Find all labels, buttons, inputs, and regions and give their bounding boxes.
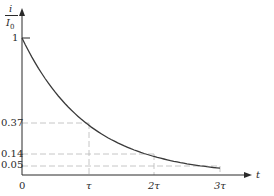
y-label-numerator: i [9,4,12,14]
y-tick-label-0.05: 0.05 [1,160,23,170]
reference-lines [22,123,220,175]
axes [22,14,246,175]
y-axis-arrow-icon [19,8,25,16]
x-tick-label-2tau: 2τ [148,181,160,191]
x-axis-label: t [256,170,260,180]
x-tick-label-3tau: 3τ [214,181,226,191]
x-tick-label-tau: τ [86,181,92,191]
y-label-denominator: I0 [6,18,14,32]
decay-curve [22,38,220,168]
decay-chart [0,0,274,196]
x-axis-arrow-icon [244,172,252,178]
y-label-fraction-bar [5,15,18,16]
y-tick-label-0.14: 0.14 [1,149,23,159]
y-tick-label-0.37: 0.37 [1,118,23,128]
y-tick-label-1: 1 [12,33,18,43]
x-tick-label-0: 0 [19,181,25,191]
